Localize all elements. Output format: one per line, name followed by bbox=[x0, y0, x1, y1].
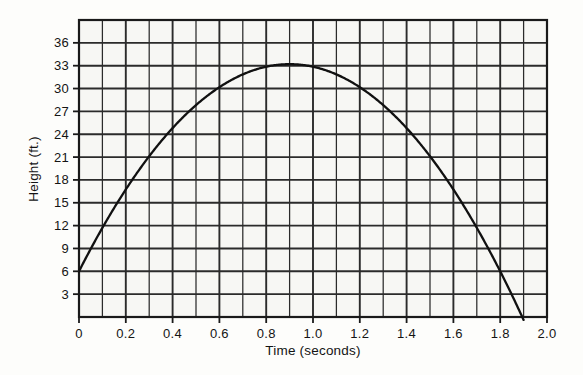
y-tick-label: 33 bbox=[54, 58, 69, 73]
x-tick-label: 2.0 bbox=[538, 326, 557, 341]
y-tick-label: 3 bbox=[61, 287, 69, 302]
y-tick-label: 6 bbox=[61, 264, 69, 279]
x-axis-title: Time (seconds) bbox=[265, 343, 360, 358]
vertical-gridlines bbox=[79, 20, 547, 317]
x-tick-label: 0.8 bbox=[257, 326, 276, 341]
y-tick-label: 15 bbox=[54, 195, 69, 210]
chart-canvas: 369121518212427303336 00.20.40.60.81.01.… bbox=[0, 0, 583, 375]
projectile-height-chart: 369121518212427303336 00.20.40.60.81.01.… bbox=[0, 0, 583, 375]
x-tick-label: 0.4 bbox=[163, 326, 182, 341]
y-tick-label: 18 bbox=[54, 172, 69, 187]
x-tick-label: 1.8 bbox=[491, 326, 510, 341]
y-tick-label: 36 bbox=[54, 35, 69, 50]
x-tick-label: 0 bbox=[75, 326, 83, 341]
y-tick-label: 24 bbox=[54, 127, 69, 142]
y-tick-label: 21 bbox=[54, 150, 69, 165]
x-axis-tick-labels: 00.20.40.60.81.01.21.41.61.82.0 bbox=[75, 326, 556, 341]
x-tick-label: 1.0 bbox=[304, 326, 323, 341]
x-tick-label: 1.4 bbox=[397, 326, 416, 341]
x-tick-label: 1.6 bbox=[444, 326, 463, 341]
x-tick-label: 0.2 bbox=[116, 326, 135, 341]
y-axis-tick-labels: 369121518212427303336 bbox=[54, 35, 69, 301]
y-tick-label: 12 bbox=[54, 218, 69, 233]
y-tick-label: 9 bbox=[61, 241, 69, 256]
x-tick-label: 1.2 bbox=[350, 326, 369, 341]
y-tick-label: 27 bbox=[54, 104, 69, 119]
y-axis-title: Height (ft.) bbox=[26, 136, 41, 201]
y-tick-label: 30 bbox=[54, 81, 69, 96]
x-tick-label: 0.6 bbox=[210, 326, 229, 341]
